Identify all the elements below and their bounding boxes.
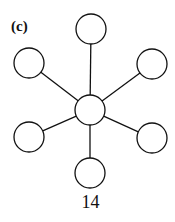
leaf-node-1 bbox=[76, 14, 106, 44]
edge-4 bbox=[104, 116, 139, 132]
center-node bbox=[75, 95, 105, 125]
leaf-node-5 bbox=[137, 123, 167, 153]
leaf-node-3 bbox=[137, 49, 167, 79]
star-graph-diagram bbox=[0, 0, 175, 222]
edge-3 bbox=[43, 116, 77, 131]
figure-caption: 14 bbox=[0, 192, 175, 213]
leaf-node-4 bbox=[14, 122, 44, 152]
edge-1 bbox=[41, 72, 78, 101]
leaf-node-6 bbox=[75, 158, 105, 188]
edge-2 bbox=[102, 73, 140, 101]
leaf-node-2 bbox=[14, 48, 44, 78]
edge-0 bbox=[90, 44, 91, 95]
